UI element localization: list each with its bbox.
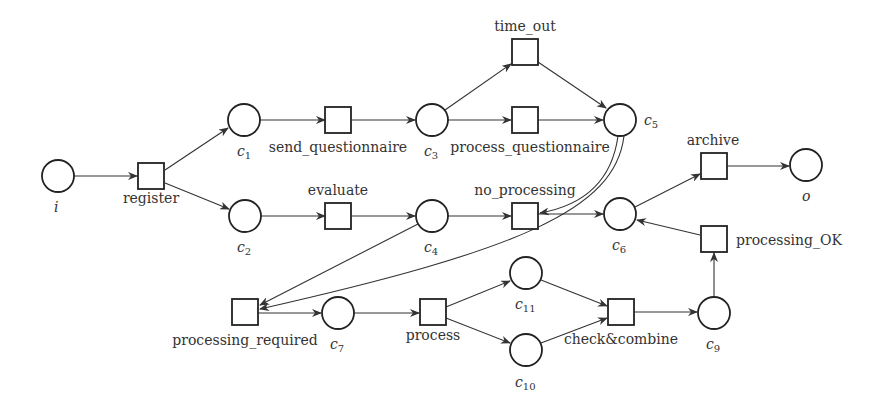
place-c5[interactable] bbox=[604, 104, 636, 136]
place-c6[interactable] bbox=[604, 198, 636, 230]
label-register: register bbox=[123, 190, 180, 206]
label-c11: c11 bbox=[515, 296, 536, 314]
place-c7[interactable] bbox=[322, 297, 354, 329]
label-send-questionnaire: send_questionnaire bbox=[269, 139, 407, 156]
petri-net-diagram: i c1 c2 c3 c4 c5 c6 c7 c9 c10 c11 o regi… bbox=[0, 0, 884, 409]
place-c1[interactable] bbox=[228, 104, 260, 136]
transition-process-questionnaire[interactable] bbox=[512, 107, 538, 133]
arc-procok-c6 bbox=[637, 220, 700, 235]
arc-process-c11 bbox=[446, 281, 510, 307]
transition-processing-ok[interactable] bbox=[701, 226, 727, 252]
label-c1: c1 bbox=[237, 143, 251, 161]
place-c10[interactable] bbox=[510, 334, 542, 366]
transition-send-questionnaire[interactable] bbox=[325, 107, 351, 133]
place-labels: i c1 c2 c3 c4 c5 c6 c7 c9 c10 c11 o bbox=[54, 112, 810, 392]
label-processing-ok: processing_OK bbox=[736, 232, 843, 249]
transition-archive[interactable] bbox=[701, 153, 727, 179]
label-c7: c7 bbox=[330, 336, 344, 354]
transition-check-combine[interactable] bbox=[608, 299, 634, 325]
place-o[interactable] bbox=[790, 149, 822, 181]
transition-labels: register send_questionnaire time_out pro… bbox=[123, 18, 843, 349]
transition-time-out[interactable] bbox=[512, 39, 538, 65]
label-c9: c9 bbox=[706, 336, 720, 354]
label-processing-required: processing_required bbox=[172, 332, 317, 349]
place-c4[interactable] bbox=[416, 200, 448, 232]
label-i: i bbox=[54, 199, 58, 215]
label-c6: c6 bbox=[612, 237, 626, 255]
arc-register-c1 bbox=[165, 128, 228, 170]
label-c5: c5 bbox=[644, 112, 658, 130]
arc-c3-timeout bbox=[445, 64, 511, 110]
transition-register[interactable] bbox=[138, 163, 164, 189]
transition-evaluate[interactable] bbox=[325, 203, 351, 229]
label-no-processing: no_processing bbox=[474, 182, 576, 199]
place-c9[interactable] bbox=[698, 297, 730, 329]
transitions bbox=[138, 39, 727, 325]
place-c2[interactable] bbox=[229, 200, 261, 232]
arc-timeout-c5 bbox=[538, 62, 606, 108]
place-i[interactable] bbox=[42, 160, 74, 192]
label-c10: c10 bbox=[515, 374, 536, 392]
label-c2: c2 bbox=[237, 239, 251, 257]
label-process: process bbox=[406, 327, 461, 343]
label-c3: c3 bbox=[424, 143, 438, 161]
label-process-questionnaire: process_questionnaire bbox=[450, 139, 609, 156]
arc-c11-check bbox=[541, 280, 607, 306]
transition-processing-required[interactable] bbox=[232, 299, 258, 325]
label-c4: c4 bbox=[424, 239, 438, 257]
label-check-combine: check&combine bbox=[564, 331, 678, 347]
label-archive: archive bbox=[687, 132, 740, 148]
transition-process[interactable] bbox=[420, 299, 446, 325]
label-evaluate: evaluate bbox=[308, 182, 368, 198]
place-c3[interactable] bbox=[416, 104, 448, 136]
arc-c4-procreq bbox=[260, 224, 418, 305]
place-c11[interactable] bbox=[510, 257, 542, 289]
transition-no-processing[interactable] bbox=[512, 203, 538, 229]
label-time-out: time_out bbox=[494, 18, 556, 35]
label-o: o bbox=[802, 188, 810, 204]
arc-c6-archive bbox=[635, 174, 700, 207]
